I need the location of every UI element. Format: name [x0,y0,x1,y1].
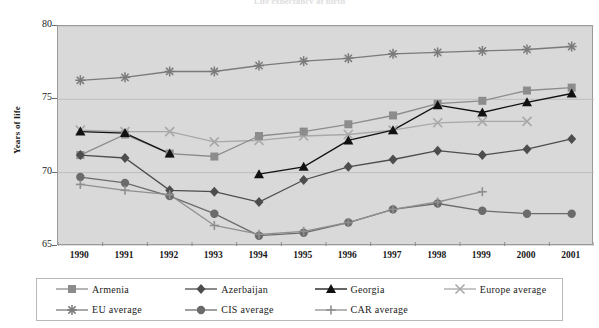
x-axis-tick-labels: 1990199119921993199419951996199719981999… [57,250,593,266]
data-point-circle [523,210,531,218]
x-axis-tick-label: 1999 [459,250,503,260]
data-point-plus [210,221,219,230]
chart-legend: ArmeniaAzerbaijanGeorgiaEurope averageEU… [36,278,563,321]
data-point-star [388,49,398,59]
data-point-star [477,46,487,56]
triangle-marker [314,283,348,295]
x-axis-tick-label: 1994 [236,250,280,260]
data-point-star [67,305,77,315]
legend-item[interactable]: Europe average [429,283,558,295]
data-point-star [567,42,577,52]
y-axis-tick-labels: 80757065 [0,0,52,260]
data-point-diamond [567,134,576,144]
data-point-diamond [478,150,487,160]
y-axis-tick-label: 75 [6,91,52,102]
data-point-square [478,97,486,105]
series-line [80,184,482,234]
legend-item-label: EU average [92,304,142,315]
legend-item[interactable]: CAR average [300,304,429,316]
data-point-circle [210,210,218,218]
legend-item[interactable]: Armenia [41,283,170,295]
cross-x-marker [443,283,477,295]
legend-item-label: Armenia [92,284,129,295]
data-point-diamond [210,187,219,197]
data-point-square [389,111,397,119]
legend-item-label: CIS average [221,304,273,315]
data-point-plus [478,187,487,196]
data-point-diamond [197,284,206,294]
legend-item-label: CAR average [351,304,408,315]
x-axis-tick-label: 1995 [281,250,325,260]
data-point-square [344,120,352,128]
legend-item-label: Europe average [480,284,547,295]
data-point-diamond [389,154,398,164]
data-point-square [68,285,76,293]
plus-marker [314,304,348,316]
data-point-circle [567,210,575,218]
data-point-star [254,61,264,71]
data-point-star [299,56,309,66]
data-point-square [300,128,308,136]
x-axis-tick-label: 1997 [370,250,414,260]
data-point-diamond [433,146,442,156]
data-point-diamond [121,153,130,163]
x-axis-tick-label: 1990 [57,250,101,260]
star-marker [55,304,89,316]
chart-title: Life expectancy at birth [0,0,599,4]
y-axis-tick-label: 80 [6,18,52,29]
data-point-star [75,75,85,85]
data-point-plus [76,180,85,189]
circle-marker [184,304,218,316]
legend-item[interactable]: CIS average [170,304,299,316]
data-point-diamond [344,162,353,172]
data-point-star [209,66,219,76]
y-axis-tick-label: 70 [6,165,52,176]
square-marker [55,283,89,295]
x-axis-tick-label: 1998 [415,250,459,260]
x-axis-tick-label: 1996 [325,250,369,260]
legend-item-label: Georgia [351,284,385,295]
legend-item[interactable]: Azerbaijan [170,283,299,295]
x-axis-tick-label: 1993 [191,250,235,260]
x-axis-tick-label: 1992 [147,250,191,260]
data-point-diamond [299,175,308,185]
data-point-triangle [299,162,309,171]
data-point-plus [389,205,398,214]
series-line [80,47,571,81]
chart-root: Life expectancy at birth Years of life 8… [0,0,599,328]
data-point-star [433,47,443,57]
x-axis-tick-label: 2001 [549,250,593,260]
plot-area [57,25,593,245]
data-point-star [120,72,130,82]
data-point-star [522,44,532,54]
data-point-plus [121,186,130,195]
data-point-plus [344,218,353,227]
data-point-diamond [255,197,264,207]
data-point-square [523,87,531,95]
chart-plot-svg [58,26,594,246]
legend-item[interactable]: Georgia [300,283,429,295]
legend-item-label: Azerbaijan [221,284,268,295]
legend-grid: ArmeniaAzerbaijanGeorgiaEurope averageEU… [37,279,562,320]
data-point-square [255,132,263,140]
y-axis-tick-mark [52,245,57,246]
data-point-circle [197,306,205,314]
data-point-circle [478,207,486,215]
data-point-diamond [523,144,532,154]
data-point-star [165,66,175,76]
y-axis-tick-label: 65 [6,238,52,249]
data-point-plus [326,305,335,314]
diamond-marker [184,283,218,295]
x-axis-tick-label: 2000 [504,250,548,260]
legend-item[interactable]: EU average [41,304,170,316]
data-point-star [343,53,353,63]
x-axis-tick-label: 1991 [102,250,146,260]
data-point-square [210,153,218,161]
